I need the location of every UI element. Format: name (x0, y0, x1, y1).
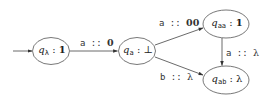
edge-label-qa-qab: b :: λ (160, 72, 193, 82)
edge-sep: :: (85, 38, 107, 48)
state-label-q-ab: qab : λ (205, 74, 249, 86)
edge-sep: :: (165, 72, 187, 82)
edge-output: λ (253, 47, 259, 58)
state-label-q-lambda: qλ : 1 (36, 45, 68, 57)
edge-output: λ (187, 71, 193, 82)
edge-label-qlambda-qa: a :: 0 (80, 38, 114, 48)
separator: : (226, 17, 236, 28)
state-subscript: aa (218, 22, 226, 30)
edge-output: 00 (186, 17, 199, 28)
state-label-q-aa: qaa : 1 (205, 18, 249, 30)
edge-output: 0 (107, 37, 114, 48)
edge-sep: :: (231, 48, 253, 58)
state-output: 1 (236, 17, 243, 28)
state-label-q-a: qa : ⊥ (122, 45, 154, 57)
state-output: λ (236, 73, 242, 84)
state-output: ⊥ (143, 44, 152, 55)
edge-sep: :: (164, 18, 186, 28)
state-output: 1 (59, 44, 66, 55)
edge-label-qa-qaa: a :: 00 (159, 18, 199, 28)
separator: : (226, 73, 236, 84)
separator: : (49, 44, 59, 55)
edge-qa-qaa (155, 28, 203, 45)
separator: : (134, 44, 144, 55)
edge-label-qaa-qab: a :: λ (226, 48, 259, 58)
